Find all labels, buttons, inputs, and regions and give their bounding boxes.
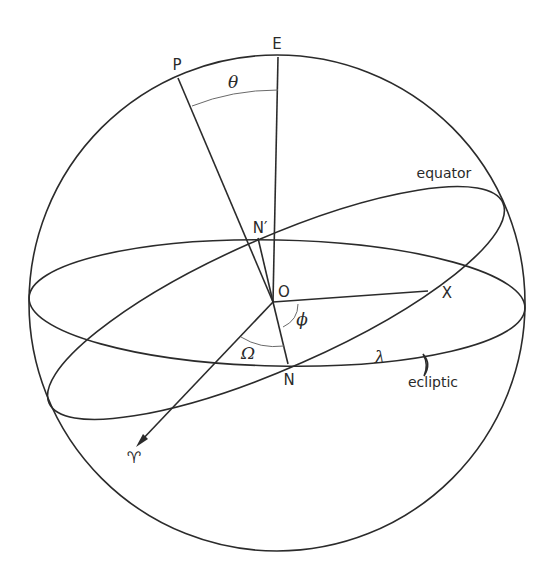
label-N-prime: N′: [253, 221, 268, 236]
line-O-aries: [140, 302, 273, 442]
label-X: X: [442, 286, 452, 301]
line-O-N: [273, 302, 288, 364]
label-lambda: λ: [375, 349, 386, 366]
aries-icon: ♈: [127, 450, 141, 466]
ecliptic-circle: [28, 235, 527, 371]
theta-arc: [192, 90, 278, 106]
label-ecliptic: ecliptic: [408, 375, 458, 389]
celestial-sphere-figure: E P θ equator N′ O X ϕ Ω λ N ecliptic ♈: [0, 0, 550, 575]
diagram-canvas: [0, 0, 550, 575]
label-P: P: [172, 58, 181, 73]
line-O-E: [273, 57, 278, 302]
label-E: E: [272, 37, 281, 52]
label-omega: Ω: [241, 345, 255, 362]
line-O-P: [178, 78, 273, 302]
label-O: O: [278, 285, 290, 300]
line-O-X: [273, 291, 428, 302]
label-phi: ϕ: [296, 311, 308, 328]
label-equator: equator: [417, 166, 472, 180]
label-theta: θ: [228, 74, 238, 91]
label-N: N: [283, 373, 294, 388]
